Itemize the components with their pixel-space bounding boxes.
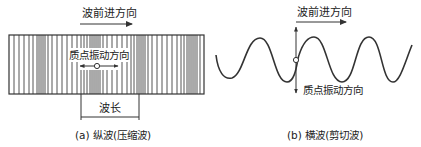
- wavelength-label: 波长: [99, 102, 121, 115]
- particle-vibration-label-a: 质点振动方向: [69, 49, 129, 61]
- caption-a: (a) 纵波(压缩波): [75, 129, 151, 141]
- wave-diagram: 波前进方向 质点振动方向 波长 (a) 纵波(压缩波) 波前进方向 质点振动方向…: [0, 0, 421, 147]
- propagation-direction-label-a: 波前进方向: [82, 6, 137, 20]
- caption-b: (b) 横波(剪切波): [287, 129, 363, 141]
- transverse-wave-panel: 波前进方向 质点振动方向 (b) 横波(剪切波): [216, 5, 412, 141]
- longitudinal-wave-panel: 波前进方向 质点振动方向 波长 (a) 纵波(压缩波): [9, 6, 204, 141]
- particle-dot-b: [293, 57, 298, 62]
- propagation-direction-label-b: 波前进方向: [297, 5, 352, 19]
- particle-vibration-label-b: 质点振动方向: [303, 84, 363, 96]
- particle-dot-a: [94, 63, 99, 68]
- sine-wave: [216, 37, 412, 82]
